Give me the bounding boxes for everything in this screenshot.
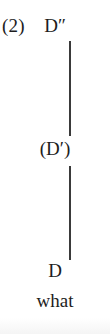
tree-node-d-head: D — [0, 260, 110, 282]
tree-node-d-prime: (D′) — [0, 138, 110, 160]
tree-terminal-word: what — [0, 290, 110, 312]
tree-branch-upper — [69, 41, 71, 136]
tree-branch-lower — [69, 166, 71, 260]
tree-node-d-double-prime: D″ — [0, 15, 110, 37]
syntax-tree-figure: (2) D″ (D′) D what — [0, 0, 110, 334]
page-tint — [0, 318, 110, 334]
